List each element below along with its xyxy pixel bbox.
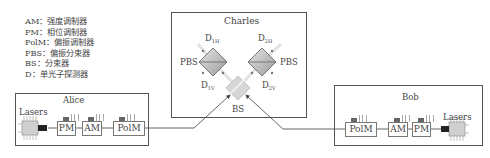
alice-am-module: AM	[82, 121, 102, 136]
pbs-right-label: PBS	[280, 57, 298, 67]
bs-label: BS	[232, 104, 244, 114]
alice-fiber	[149, 95, 230, 128]
bob-title: Bob	[402, 92, 419, 102]
pbs-left-label: PBS	[180, 57, 198, 67]
detector-1v: D1V	[201, 80, 215, 91]
detector-2h: D2H	[258, 33, 272, 44]
bob-am-module: AM	[388, 122, 408, 137]
charles-title: Charles	[224, 16, 259, 26]
bob-polm-module: PolM	[345, 122, 377, 137]
detector-2v: D2V	[262, 80, 276, 91]
bob-fiber	[246, 95, 345, 129]
alice-lasers-label: Lasers	[19, 107, 48, 117]
alice-laser-icon	[18, 116, 47, 140]
bob-pm-module: PM	[412, 122, 431, 137]
alice-polm-module: PolM	[113, 121, 145, 136]
alice-pm-module: PM	[57, 121, 76, 136]
bob-lasers-label: Lasers	[443, 112, 472, 122]
detector-1h: D1H	[205, 33, 219, 44]
alice-title: Alice	[63, 95, 84, 105]
